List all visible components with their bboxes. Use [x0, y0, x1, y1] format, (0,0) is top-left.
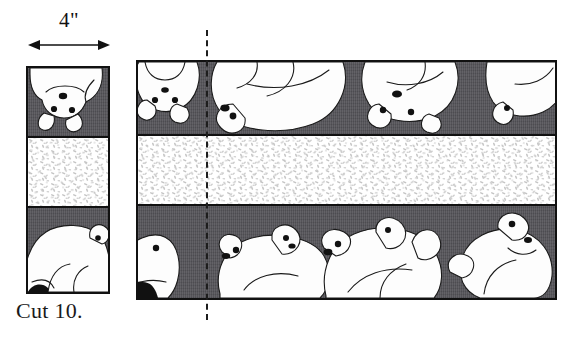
strip-band-dark-top	[28, 68, 108, 136]
snow-speckle-texture	[138, 136, 555, 204]
strip-band-speckle	[28, 138, 108, 206]
cut-line-dashed	[206, 30, 208, 320]
main-band-dark-bottom	[138, 206, 555, 298]
main-band-dark-top	[138, 62, 555, 134]
cut-strip-panel	[26, 66, 110, 294]
dimension-label: 4"	[27, 8, 111, 33]
polar-bear-row-inverted	[138, 62, 555, 134]
main-band-speckle	[138, 136, 555, 204]
polar-bear-row-upright	[138, 206, 555, 298]
polar-bear-motif-upright	[28, 208, 108, 292]
strip-band-dark-bottom	[28, 208, 108, 292]
figure-canvas: 4"	[0, 0, 588, 345]
snow-speckle-texture	[28, 138, 108, 206]
fabric-yardage-panel	[136, 60, 557, 300]
polar-bear-motif-inverted	[28, 68, 108, 136]
double-headed-arrow-icon	[28, 38, 110, 52]
caption-cut-count: Cut 10.	[16, 298, 83, 324]
